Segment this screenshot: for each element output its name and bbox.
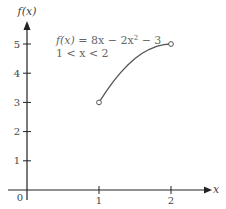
y-axis-arrow-icon [24, 21, 31, 30]
formula-tail: − 3 [138, 34, 161, 47]
formula-fx: f(x) [55, 34, 75, 47]
open-endpoint-icon [169, 42, 174, 47]
y-tick-label: 3 [14, 97, 20, 108]
origin-label: 0 [17, 192, 23, 203]
domain-annotation: 1 < x < 2 [56, 47, 109, 60]
formula-annotation: f(x) = 8x − 2x2 − 3 [55, 34, 161, 47]
x-tick-label: 2 [168, 195, 174, 206]
x-axis-label: x [213, 183, 220, 196]
function-graph: 1212345 f(x) x 0 f(x) = 8x − 2x2 − 3 1 <… [0, 0, 226, 209]
axis-ticks: 1212345 [14, 39, 175, 207]
open-endpoint-icon [97, 100, 102, 105]
x-tick-label: 1 [96, 195, 102, 206]
y-tick-label: 5 [14, 39, 20, 50]
y-tick-label: 1 [14, 155, 20, 166]
function-curve [99, 44, 171, 102]
axes [8, 21, 212, 200]
y-tick-label: 2 [14, 126, 20, 137]
y-tick-label: 4 [14, 68, 20, 79]
formula-body: = 8x − 2x [75, 34, 135, 47]
y-axis-label: f(x) [17, 5, 37, 18]
x-axis-arrow-icon [204, 187, 212, 194]
